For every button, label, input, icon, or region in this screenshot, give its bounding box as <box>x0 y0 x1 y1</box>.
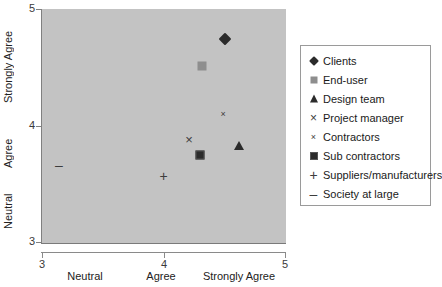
y-tick-label: 5 <box>5 3 35 14</box>
legend-glyph: × <box>310 112 317 124</box>
data-point-design-team <box>234 142 244 151</box>
legend-item[interactable]: +Suppliers/manufacturers <box>301 165 430 184</box>
y-category-label: Agree <box>2 122 15 184</box>
y-tick-mark <box>36 242 41 243</box>
legend-item[interactable]: Design team <box>301 89 430 108</box>
legend-item[interactable]: Clients <box>301 51 430 70</box>
x-category-label: Strongly Agree <box>184 270 294 282</box>
legend-item[interactable]: Sub contractors <box>301 146 430 165</box>
legend-glyph: – <box>310 187 318 201</box>
legend-item[interactable]: –Society at large <box>301 184 430 203</box>
legend-label: Society at large <box>323 188 399 200</box>
legend: ClientsEnd-userDesign team×Project manag… <box>300 45 431 206</box>
legend-label: End-user <box>323 74 368 86</box>
legend-item[interactable]: End-user <box>301 70 430 89</box>
data-point-contractors: × <box>220 109 225 118</box>
legend-glyph <box>309 56 319 66</box>
legend-marker-icon: – <box>306 186 321 201</box>
x-tick-label: 3 <box>27 258 57 270</box>
y-tick-label-wrap: 5 <box>0 3 35 14</box>
legend-marker-icon <box>306 72 321 87</box>
legend-marker-icon: × <box>306 110 321 125</box>
x-tick-label: 5 <box>270 258 300 270</box>
legend-item[interactable]: ×Contractors <box>301 127 430 146</box>
y-tick-mark <box>36 126 41 127</box>
y-category-label: Strongly Agree <box>2 17 15 117</box>
legend-label: Suppliers/manufacturers <box>323 169 442 181</box>
y-tick-mark <box>36 9 41 10</box>
legend-marker-icon <box>306 148 321 163</box>
legend-glyph: + <box>309 168 317 182</box>
y-category-label: Neutral <box>2 180 15 242</box>
legend-marker-icon: + <box>306 167 321 182</box>
x-tick-label: 4 <box>149 258 179 270</box>
legend-glyph: × <box>311 132 316 141</box>
data-point-end-user <box>198 62 207 71</box>
y-axis-line <box>41 9 42 244</box>
plot-area <box>42 9 286 243</box>
legend-marker-icon <box>306 91 321 106</box>
data-point-suppliers-manufacturers: + <box>159 169 167 183</box>
legend-glyph <box>310 94 318 102</box>
legend-label: Project manager <box>323 112 404 124</box>
legend-item[interactable]: ×Project manager <box>301 108 430 127</box>
data-point-project-manager: × <box>185 133 193 146</box>
plot-bottom-border <box>41 243 286 244</box>
legend-marker-icon: × <box>306 129 321 144</box>
legend-marker-icon <box>306 53 321 68</box>
legend-label: Sub contractors <box>323 150 400 162</box>
data-point-society-at-large: – <box>55 158 63 172</box>
legend-label: Clients <box>323 55 357 67</box>
legend-label: Contractors <box>323 131 380 143</box>
legend-label: Design team <box>323 93 385 105</box>
legend-glyph <box>310 76 317 83</box>
data-point-sub-contractors <box>195 150 204 159</box>
legend-glyph <box>310 152 318 160</box>
